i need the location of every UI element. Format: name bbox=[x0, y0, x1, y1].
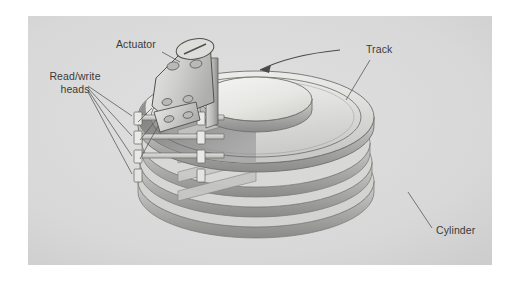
label-read-write-heads-text: Read/write heads bbox=[49, 70, 100, 95]
illustration-panel: Actuator Read/write heads Track Cylinder bbox=[28, 16, 492, 265]
label-cylinder: Cylinder bbox=[436, 224, 475, 237]
read-write-head-3b bbox=[197, 150, 205, 163]
read-write-head-2b bbox=[197, 131, 205, 144]
label-actuator: Actuator bbox=[116, 38, 156, 51]
hard-disk-diagram bbox=[28, 16, 492, 265]
label-read-write-heads: Read/write heads bbox=[34, 70, 116, 95]
read-write-head-4a bbox=[134, 169, 142, 182]
read-write-head-4b bbox=[197, 169, 205, 182]
read-write-head-2a bbox=[134, 131, 142, 144]
label-track: Track bbox=[366, 43, 392, 56]
read-write-head-3a bbox=[134, 150, 142, 163]
read-write-head-1a bbox=[134, 112, 142, 125]
figure-root: Actuator Read/write heads Track Cylinder bbox=[0, 0, 514, 281]
